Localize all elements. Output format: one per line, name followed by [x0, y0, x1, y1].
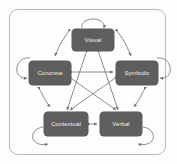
self-loop-visual [82, 19, 104, 28]
node-visual-label: Visual [85, 37, 102, 43]
self-loop-symbolic [157, 58, 170, 78]
node-visual[interactable]: Visual [72, 29, 114, 51]
node-verbal[interactable]: Verbal [100, 112, 142, 136]
node-verbal-label: Verbal [112, 121, 130, 127]
edge-visual-concrete [55, 32, 68, 56]
edge-concrete-contextual [40, 90, 50, 107]
node-concrete[interactable]: Concrete [29, 61, 71, 85]
node-concrete-label: Concrete [37, 70, 62, 76]
edge-visual-symbolic [118, 32, 131, 56]
edge-symbolic-verbal [134, 90, 144, 107]
node-contextual-label: Contextual [51, 121, 81, 127]
node-symbolic-label: Symbolic [124, 70, 149, 76]
diagram-canvas: Visual Concrete Symbolic Contextual Verb… [0, 0, 177, 164]
node-contextual[interactable]: Contextual [44, 112, 88, 136]
node-symbolic[interactable]: Symbolic [116, 61, 158, 85]
